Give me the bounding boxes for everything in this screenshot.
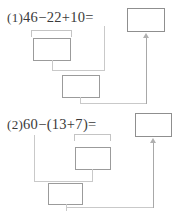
problem-1-step-2-box[interactable] — [62, 75, 100, 98]
problem-1-number: (1) — [7, 10, 23, 25]
problem-2-connector-join-rail — [34, 181, 93, 182]
problem-2-step-1-box[interactable] — [75, 147, 111, 170]
problem-1-equation: 46−22+10= — [23, 9, 94, 25]
problem-2-step-2-box[interactable] — [48, 183, 83, 205]
problem-1-answer-box[interactable] — [127, 8, 165, 32]
problem-2-arrow-icon — [150, 138, 156, 143]
problem-1-step-1-box[interactable] — [33, 38, 71, 61]
problem-1-expression: (1)46−22+10= — [7, 8, 94, 27]
problem-2-connector-bottom-rail — [66, 207, 154, 208]
problem-1-connector-join-rail — [52, 70, 105, 71]
problem-2-connector-up-to-answer — [153, 143, 154, 208]
problem-2-expression: (2)60−(13+7)= — [7, 115, 97, 134]
worksheet-page: (1)46−22+10= (2)60−(13+7)= — [0, 0, 178, 214]
problem-1-connector-bottom-rail — [80, 103, 146, 104]
problem-2: (2)60−(13+7)= — [0, 107, 178, 214]
problem-2-connector-operand-down — [34, 135, 35, 182]
problem-1-bracket-first-operation — [31, 30, 72, 37]
problem-2-number: (2) — [7, 117, 23, 132]
problem-1-connector-step1-down — [52, 60, 53, 71]
problem-2-bracket-parenthesis-group — [74, 134, 111, 141]
problem-2-answer-box[interactable] — [135, 113, 172, 137]
problem-1-connector-up-to-answer — [146, 38, 147, 104]
problem-2-equation: 60−(13+7)= — [23, 116, 96, 132]
problem-1-arrow-icon — [143, 33, 149, 38]
problem-1-connector-operand-down — [104, 26, 105, 71]
problem-1: (1)46−22+10= — [0, 0, 178, 107]
problem-2-connector-step1-down — [92, 169, 93, 182]
